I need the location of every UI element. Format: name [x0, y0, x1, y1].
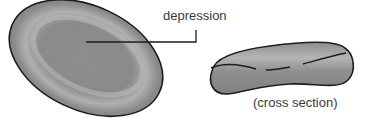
cross-section-label: (cross section)	[253, 96, 338, 109]
top-view-cell	[0, 0, 181, 121]
cross-section-cell	[211, 43, 354, 95]
cell-outline	[0, 0, 181, 121]
depression-label: depression	[163, 9, 227, 22]
